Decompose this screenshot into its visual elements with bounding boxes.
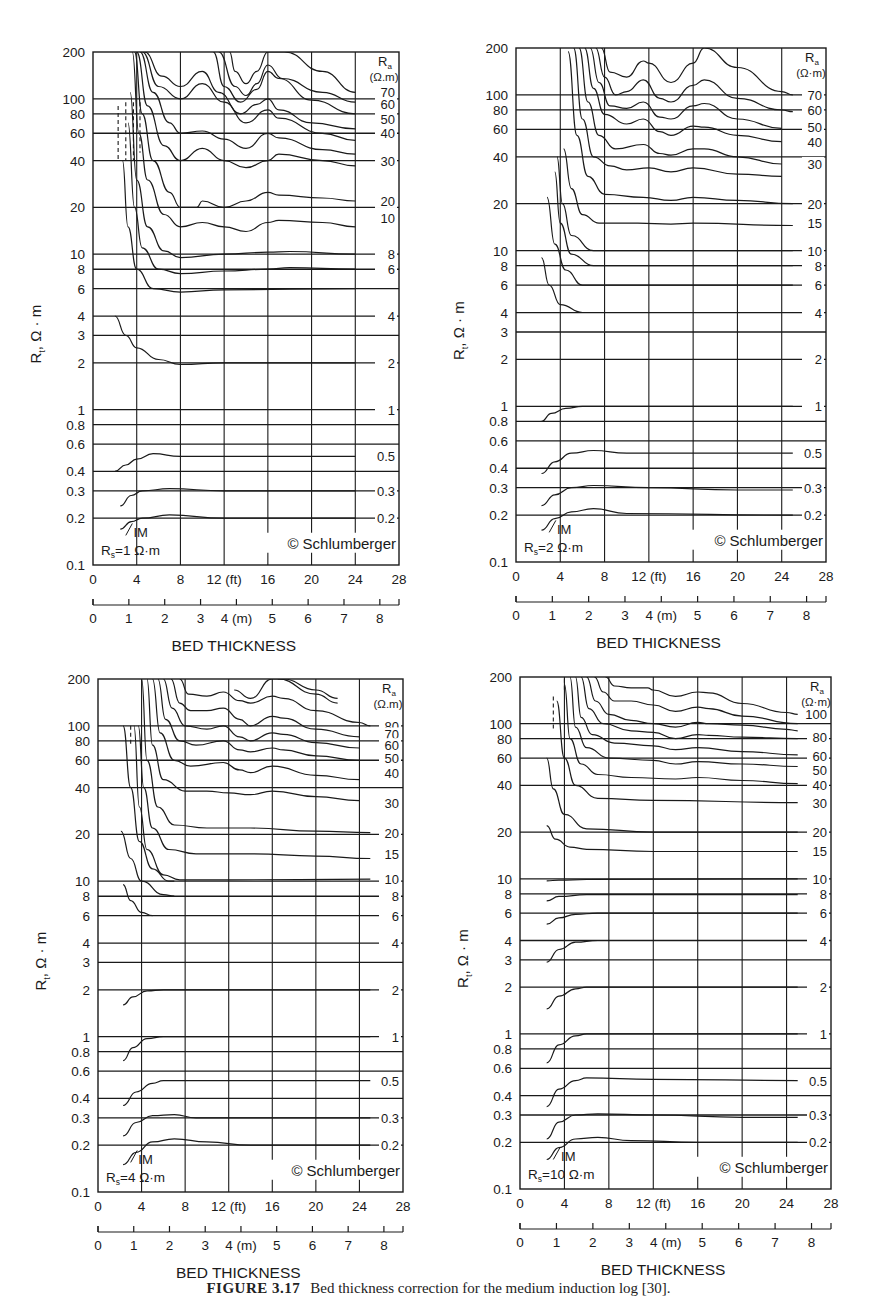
x-tick-label-ft: 12 (ft)	[207, 572, 242, 587]
ra-label: 8	[820, 887, 827, 902]
y-tick-label: 1	[504, 1027, 512, 1042]
x-tick-label-ft: 8	[605, 1196, 613, 1211]
curve-ra-0.3	[542, 486, 793, 506]
x-tick-label-ft: 16	[260, 572, 275, 587]
y-tick-label: 0.8	[489, 414, 508, 429]
ra-label: 20	[813, 825, 827, 840]
y-tick-label: 200	[62, 45, 85, 60]
ra-label: 4	[392, 936, 399, 951]
y-tick-label: 4	[82, 936, 90, 951]
ra-label: 0.5	[377, 449, 395, 464]
x-tick-label-m: 4 (m)	[650, 1235, 682, 1250]
im-pointer	[126, 523, 133, 535]
x-tick-label-ft: 4	[561, 1196, 569, 1211]
curve-ra-70	[278, 679, 338, 703]
curve-ra-0.2	[547, 1078, 798, 1107]
x-tick-label-m: 8	[803, 608, 811, 623]
x-tick-label-ft: 0	[516, 1196, 524, 1211]
curve-ra-1	[547, 941, 798, 963]
x-tick-label-m: 0	[512, 608, 520, 623]
curve-ra-1	[123, 1037, 370, 1061]
x-tick-label-m: 5	[694, 608, 702, 623]
ra-label: 20	[808, 197, 822, 212]
y-tick-label: 3	[77, 328, 85, 343]
x-axis-title: BED THICKNESS	[171, 637, 296, 654]
y-tick-label: 100	[67, 719, 90, 734]
curve-ra-10	[547, 758, 798, 832]
ra-label: 4	[815, 306, 822, 321]
ra-label: 1	[820, 1027, 827, 1042]
curve-ra-15	[557, 701, 798, 803]
curve-group	[115, 52, 355, 529]
curve-ra-8	[138, 726, 370, 859]
curve-ra-8	[547, 826, 798, 852]
x-tick-label-ft: 12 (ft)	[636, 1196, 671, 1211]
y-axis-title: Rt, Ω · m	[454, 929, 474, 988]
ra-label: 60	[813, 749, 827, 764]
y-tick-label: 2	[500, 352, 508, 367]
x-tick-label-m: 1	[125, 611, 133, 626]
y-tick-label: 60	[75, 753, 90, 768]
y-tick-label: 0.3	[489, 481, 508, 496]
y-tick-label: 2	[77, 356, 85, 371]
x-tick-label-ft: 24	[779, 1196, 795, 1211]
curve-ra-80	[594, 677, 797, 724]
copyright-label: © Schlumberger	[291, 1162, 400, 1179]
ra-label: 0.2	[809, 1135, 827, 1150]
ra-label: 70	[808, 88, 822, 103]
ra-label: 30	[385, 796, 399, 811]
y-tick-label: 3	[82, 955, 90, 970]
curve-ra-20	[564, 684, 797, 784]
curve-ra-40	[144, 52, 355, 129]
ra-label: 2	[392, 983, 399, 998]
y-tick-label: 100	[485, 88, 508, 103]
curve-ra-4	[547, 895, 798, 901]
y-tick-label: 40	[493, 150, 508, 165]
ra-label: 2	[815, 352, 822, 367]
y-tick-label: 0.2	[66, 511, 85, 526]
chart-panel-top-left: 70605040302010864210.50.30.2Ra(Ω.m)0.10.…	[27, 45, 407, 654]
y-tick-label: 20	[75, 827, 90, 842]
y-tick-label: 10	[70, 247, 85, 262]
x-tick-label-m: 4 (m)	[646, 608, 678, 623]
y-tick-label: 6	[82, 909, 90, 924]
x-tick-label-ft: 4	[133, 572, 141, 587]
ra-label: 8	[815, 259, 822, 274]
curve-ra-0.1	[120, 515, 355, 529]
curve-ra-60	[180, 679, 371, 726]
rs-label: Rs=4 Ω·m	[106, 1170, 165, 1187]
curve-ra-50	[213, 52, 355, 114]
x-tick-label-ft: 24	[352, 1199, 368, 1214]
ra-label: 40	[381, 126, 395, 141]
curve-ra-1b	[123, 885, 152, 916]
y-tick-label: 0.3	[71, 1111, 90, 1126]
curve-ra-0.2	[542, 509, 793, 531]
x-tick-label-m: 1	[553, 1235, 561, 1250]
x-tick-label-m: 2	[589, 1235, 597, 1250]
curve-ra-15	[568, 52, 793, 204]
y-tick-label: 0.6	[71, 1064, 90, 1079]
y-tick-label: 40	[70, 154, 85, 169]
y-tick-label: 10	[493, 244, 508, 259]
curve-ra-4	[123, 726, 174, 881]
x-tick-label-ft: 20	[304, 572, 319, 587]
y-tick-label: 2	[82, 983, 90, 998]
y-tick-label: 0.4	[66, 464, 85, 479]
x-tick-label-ft: 28	[391, 572, 406, 587]
y-tick-label: 1	[500, 399, 508, 414]
curve-ra-60	[596, 48, 793, 112]
curve-ra-70	[601, 48, 793, 95]
y-tick-label: 4	[77, 309, 85, 324]
ra-label: 30	[381, 154, 395, 169]
ra-label: 6	[815, 278, 822, 293]
curve-ra-6	[132, 52, 355, 232]
y-tick-label: 200	[489, 670, 512, 685]
x-tick-label-m: 8	[380, 1238, 388, 1253]
ra-label: 40	[808, 135, 822, 150]
x-tick-label-m: 6	[309, 1238, 317, 1253]
x-tick-label-m: 2	[585, 608, 593, 623]
x-tick-label-m: 1	[549, 608, 557, 623]
y-tick-label: 8	[500, 259, 508, 274]
ra-label: 50	[381, 112, 395, 127]
y-tick-label: 0.6	[66, 437, 85, 452]
